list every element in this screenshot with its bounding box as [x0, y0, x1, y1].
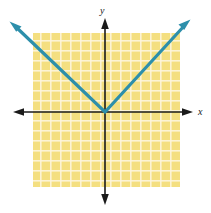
coordinate-plane-svg — [0, 0, 211, 213]
x-axis-arrow-right — [182, 108, 193, 116]
x-axis-label: x — [198, 107, 202, 117]
graph-figure: y x — [0, 0, 211, 213]
y-axis-arrow-down — [101, 194, 109, 205]
x-axis-arrow-left — [13, 108, 24, 116]
y-axis-arrow-up — [101, 18, 109, 29]
y-axis-label: y — [100, 6, 104, 16]
